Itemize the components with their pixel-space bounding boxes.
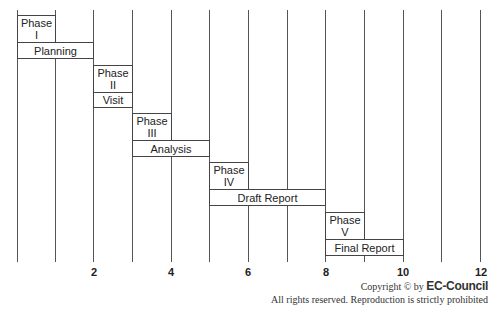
x-tick-8: 8 [323, 266, 329, 278]
phase-word: Phase [18, 17, 55, 29]
phase-label-3: Phase III [132, 113, 172, 141]
grid-line [480, 10, 481, 262]
x-tick-12: 12 [475, 266, 487, 278]
task-name: Visit [103, 94, 124, 106]
x-tick-10: 10 [397, 266, 409, 278]
phase-label-4: Phase IV [209, 162, 249, 190]
phase-number: IV [210, 176, 248, 188]
x-tick-6: 6 [245, 266, 251, 278]
copyright-line-2: All rights reserved. Reproduction is str… [271, 294, 488, 305]
grid-line [287, 10, 288, 262]
phase-word: Phase [326, 214, 364, 226]
grid-line [441, 10, 442, 262]
phase-label-1: Phase I [17, 15, 56, 43]
task-bar-draft-report: Draft Report [209, 189, 326, 206]
copyright-prefix: Copyright © by [361, 281, 427, 292]
task-bar-final-report: Final Report [325, 239, 404, 256]
phase-number: III [133, 127, 171, 139]
grid-line [209, 10, 210, 262]
task-bar-analysis: Analysis [132, 140, 210, 157]
x-tick-4: 4 [168, 266, 174, 278]
copyright-line-1: Copyright © by EC-Council [361, 279, 488, 293]
grid-line [248, 10, 249, 262]
brand-name: EC-Council [426, 279, 488, 293]
phase-number: I [18, 29, 55, 41]
task-bar-visit: Visit [93, 92, 133, 108]
phase-word: Phase [133, 115, 171, 127]
phase-word: Phase [210, 164, 248, 176]
task-name: Draft Report [238, 192, 298, 204]
task-bar-planning: Planning [17, 42, 94, 59]
task-name: Final Report [335, 242, 395, 254]
grid-line [403, 10, 404, 262]
phase-number: II [94, 79, 132, 91]
phase-word: Phase [94, 67, 132, 79]
x-tick-2: 2 [91, 266, 97, 278]
task-name: Planning [34, 45, 77, 57]
task-name: Analysis [151, 143, 192, 155]
phase-label-5: Phase V [325, 212, 365, 240]
phase-number: V [326, 226, 364, 238]
phase-label-2: Phase II [93, 65, 133, 93]
